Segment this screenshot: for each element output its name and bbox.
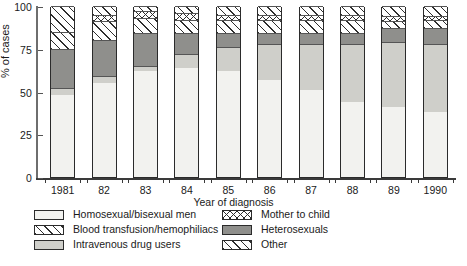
bar-segment	[175, 20, 198, 34]
y-tick-mark	[38, 178, 43, 179]
plot-area	[42, 7, 456, 178]
bar-segment	[217, 15, 240, 20]
bar-segment	[134, 6, 157, 11]
x-tick-label: 84	[181, 184, 193, 196]
bar-segment	[424, 28, 447, 43]
bar-segment	[300, 6, 323, 15]
legend-item: Other	[222, 237, 330, 252]
bar-86	[257, 7, 282, 178]
bar-segment	[175, 54, 198, 68]
bar-segment	[341, 20, 364, 34]
bar-segment	[341, 6, 364, 15]
bar-segment	[424, 44, 447, 112]
bar-segment	[134, 66, 157, 71]
y-tick-label: 75	[0, 44, 32, 56]
legend-item: Homosexual/bisexual men	[34, 207, 218, 222]
x-tick-label: 1990	[424, 184, 447, 196]
x-tick-mark	[376, 178, 377, 183]
bar-segment	[382, 28, 405, 42]
x-tick-mark	[204, 178, 205, 183]
x-tick-mark	[122, 178, 123, 183]
bar-segment	[382, 42, 405, 107]
bar-segment	[51, 6, 74, 32]
bar-85	[216, 7, 241, 178]
x-tick-mark	[211, 178, 212, 183]
x-tick-mark	[294, 178, 295, 183]
bar-84	[174, 7, 199, 178]
legend-swatch-icon	[222, 225, 252, 235]
bar-segment	[51, 32, 74, 49]
bar-segment	[382, 107, 405, 177]
legend-swatch-icon	[34, 210, 64, 220]
x-tick-label: 89	[388, 184, 400, 196]
bar-segment	[134, 71, 157, 177]
bar-segment	[175, 68, 198, 177]
bar-segment	[341, 15, 364, 20]
legend-swatch-icon	[222, 240, 252, 250]
x-tick-mark	[45, 178, 46, 183]
legend-label: Intravenous drug users	[73, 239, 180, 250]
bar-segment	[93, 6, 116, 15]
legend-swatch-icon	[34, 240, 64, 250]
bar-segment	[258, 20, 281, 34]
bar-segment	[258, 80, 281, 177]
x-tick-label: 88	[347, 184, 359, 196]
x-tick-label: 82	[98, 184, 110, 196]
bar-88	[340, 7, 365, 178]
bar-segment	[300, 20, 323, 34]
x-tick-mark	[128, 178, 129, 183]
bar-segment	[51, 49, 74, 88]
bar-segment	[134, 18, 157, 33]
x-tick-mark	[252, 178, 253, 183]
legend-column-right: Mother to childHeterosexualsOther	[222, 207, 330, 252]
bar-segment	[51, 95, 74, 177]
legend-column-left: Homosexual/bisexual menBlood transfusion…	[34, 207, 218, 252]
y-tick-label: 25	[0, 129, 32, 141]
bar-segment	[217, 20, 240, 34]
legend-item: Intravenous drug users	[34, 237, 218, 252]
bar-segment	[217, 33, 240, 47]
x-tick-label: 85	[222, 184, 234, 196]
legend-swatch-icon	[34, 225, 64, 235]
x-tick-label: 83	[140, 184, 152, 196]
bar-1990	[423, 7, 448, 178]
bar-segment	[382, 21, 405, 28]
x-tick-mark	[453, 178, 454, 183]
bar-segment	[300, 33, 323, 43]
x-tick-mark	[329, 178, 330, 183]
bar-segment	[93, 83, 116, 177]
bar-segment	[134, 33, 157, 65]
bar-1981	[50, 7, 75, 178]
bar-segment	[424, 16, 447, 19]
x-tick-mark	[370, 178, 371, 183]
x-tick-mark	[169, 178, 170, 183]
bar-segment	[341, 33, 364, 43]
y-tick-label: 50	[0, 87, 32, 99]
bar-segment	[341, 102, 364, 177]
x-tick-mark	[418, 178, 419, 183]
bar-87	[299, 7, 324, 178]
bar-segment	[382, 6, 405, 16]
x-tick-label: 86	[264, 184, 276, 196]
x-tick-mark	[246, 178, 247, 183]
bar-83	[133, 7, 158, 178]
bar-segment	[93, 76, 116, 83]
bar-segment	[424, 20, 447, 29]
y-tick-label: 100	[0, 1, 32, 13]
x-tick-mark	[80, 178, 81, 183]
bar-89	[381, 7, 406, 178]
bar-segment	[217, 71, 240, 177]
legend-label: Heterosexuals	[261, 224, 328, 235]
bar-82	[92, 7, 117, 178]
legend-label: Homosexual/bisexual men	[73, 209, 196, 220]
bar-segment	[258, 33, 281, 43]
x-tick-mark	[411, 178, 412, 183]
legend-label: Other	[261, 239, 287, 250]
legend-label: Mother to child	[261, 209, 330, 220]
bar-segment	[341, 44, 364, 102]
bar-segment	[175, 33, 198, 54]
bar-segment	[424, 112, 447, 177]
bar-segment	[300, 44, 323, 90]
x-tick-label: 1981	[51, 184, 74, 196]
bar-segment	[175, 13, 198, 20]
